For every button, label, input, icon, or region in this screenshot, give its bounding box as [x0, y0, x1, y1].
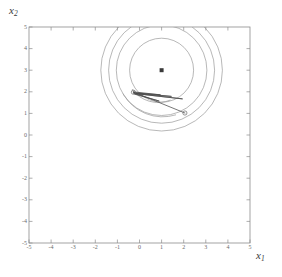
plot-markers [131, 68, 187, 115]
optimum-marker [160, 68, 164, 72]
x-tick-label: -4 [44, 244, 58, 250]
trajectory-arcs [123, 89, 176, 117]
x-tick-label: 0 [133, 244, 147, 250]
y-tick-label: 2 [15, 88, 27, 94]
x-axis-label: x1 [256, 249, 265, 261]
x-tick-label: -3 [66, 244, 80, 250]
y-tick-label: -4 [15, 218, 27, 224]
axis-ticks [29, 27, 250, 243]
y-tick-label: -1 [15, 153, 27, 159]
trajectory-path [133, 92, 185, 113]
x-tick-label: 3 [199, 244, 213, 250]
y-tick-label: 4 [15, 45, 27, 51]
y-tick-label: 0 [15, 132, 27, 138]
x-tick-label: -2 [88, 244, 102, 250]
y-tick-label: -3 [15, 196, 27, 202]
x-tick-label: -1 [110, 244, 124, 250]
y-tick-label: 1 [15, 110, 27, 116]
x-tick-label: 5 [243, 244, 257, 250]
plot-canvas [0, 0, 282, 277]
y-tick-label: 5 [15, 24, 27, 30]
x-tick-label: 4 [221, 244, 235, 250]
search-trajectory [133, 92, 185, 113]
y-tick-label: -2 [15, 175, 27, 181]
y-tick-label: -5 [15, 240, 27, 246]
plot-frame [29, 27, 250, 243]
contour-plot-figure: x2 x1 [0, 0, 282, 277]
x-tick-label: 1 [155, 244, 169, 250]
x-tick-label: 2 [177, 244, 191, 250]
y-axis-label: x2 [9, 4, 18, 16]
y-tick-label: 3 [15, 67, 27, 73]
